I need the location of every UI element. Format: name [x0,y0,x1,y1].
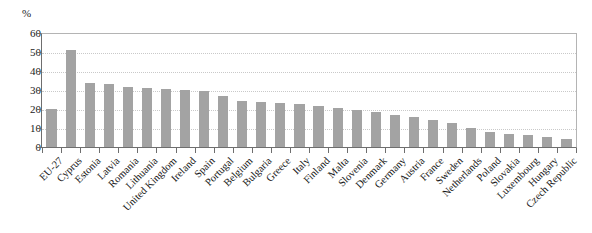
bar[interactable] [542,137,552,147]
bar[interactable] [333,108,343,147]
bar[interactable] [104,84,114,147]
bar[interactable] [523,135,533,147]
bar-slot [123,33,133,147]
bar-slot [466,33,476,147]
bar-slot [142,33,152,147]
x-axis-tick-mark [347,148,348,153]
bar-slot [523,33,533,147]
bar-slot [180,33,190,147]
bar-slot [428,33,438,147]
x-axis-tick-mark [443,148,444,153]
x-axis-tick-mark [385,148,386,153]
bar-slot [409,33,419,147]
bar-slot [390,33,400,147]
bar-chart: % 0102030405060 EU-27CyprusEstoniaLatvia… [0,0,592,233]
x-axis-tick-mark [156,148,157,153]
bar[interactable] [561,139,571,147]
x-axis-tick-mark [176,148,177,153]
x-axis-tick-mark [538,148,539,153]
bar[interactable] [218,96,228,147]
x-axis-tick-mark [61,148,62,153]
bar[interactable] [485,132,495,147]
x-axis-tick-mark [423,148,424,153]
x-axis-tick-mark [576,148,577,153]
x-axis-tick-mark [309,148,310,153]
bar[interactable] [466,128,476,147]
bar[interactable] [123,87,133,147]
x-axis-tick-mark [99,148,100,153]
bar[interactable] [428,120,438,147]
bar-slot [85,33,95,147]
bar[interactable] [237,101,247,147]
y-axis-tick-mark [36,71,41,72]
bar[interactable] [161,89,171,147]
x-axis-tick-mark [404,148,405,153]
bar[interactable] [142,88,152,147]
bar[interactable] [275,103,285,147]
bar[interactable] [313,106,323,147]
bar[interactable] [256,102,266,147]
bar[interactable] [352,110,362,147]
x-axis-tick-mark [80,148,81,153]
bar-slot [313,33,323,147]
x-axis-tick-mark [233,148,234,153]
x-axis-ticks [42,148,576,153]
y-axis-tick-mark [36,52,41,53]
y-axis-tick-mark [36,147,41,148]
x-axis-tick-mark [137,148,138,153]
bar[interactable] [199,91,209,147]
bar-slot [46,33,56,147]
y-axis-tick-mark [36,90,41,91]
bar-slot [199,33,209,147]
bar[interactable] [447,123,457,147]
bars-layer [42,33,576,147]
bar[interactable] [409,117,419,147]
x-axis-tick-mark [195,148,196,153]
bar[interactable] [371,112,381,147]
bar-slot [256,33,266,147]
x-axis-tick-mark [500,148,501,153]
x-axis-tick-mark [252,148,253,153]
x-axis-tick-mark [557,148,558,153]
bar[interactable] [294,104,304,147]
bar-slot [275,33,285,147]
x-axis-tick-mark [271,148,272,153]
x-axis-tick-mark [290,148,291,153]
y-axis: 0102030405060 [0,33,41,149]
x-axis-tick-mark [118,148,119,153]
bar-slot [485,33,495,147]
bar-slot [447,33,457,147]
bar-slot [504,33,514,147]
bar[interactable] [180,90,190,147]
bar-slot [371,33,381,147]
bar[interactable] [85,83,95,147]
bar-slot [104,33,114,147]
y-axis-tick-mark [36,33,41,34]
x-axis-tick-mark [481,148,482,153]
bar[interactable] [390,115,400,147]
bar-slot [294,33,304,147]
bar[interactable] [504,134,514,147]
bar-slot [218,33,228,147]
bar-slot [161,33,171,147]
x-axis-tick-mark [42,148,43,153]
x-axis-tick-mark [214,148,215,153]
bar-slot [237,33,247,147]
y-axis-tick-mark [36,109,41,110]
bar[interactable] [46,109,56,147]
bar-slot [352,33,362,147]
bar-slot [333,33,343,147]
bar-slot [542,33,552,147]
y-axis-tick-mark [36,128,41,129]
x-axis-tick-mark [328,148,329,153]
x-axis-tick-mark [519,148,520,153]
bar[interactable] [66,50,76,147]
x-axis-tick-mark [366,148,367,153]
x-axis-tick-mark [462,148,463,153]
bar-slot [66,33,76,147]
y-axis-unit-label: % [22,8,31,19]
bar-slot [561,33,571,147]
